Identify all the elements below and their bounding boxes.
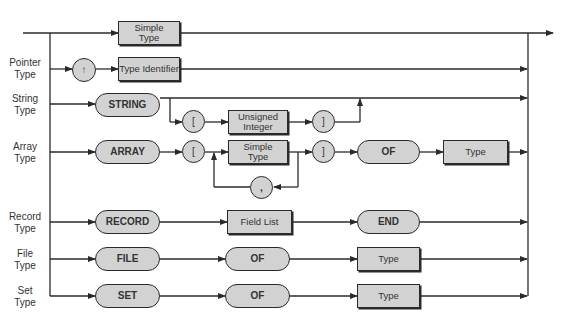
label-text: Pointer Type — [5, 57, 45, 81]
lbracket-circle: [ — [182, 140, 205, 163]
node-simple-type: Simple Type — [228, 140, 288, 164]
label-string-type: String Type — [0, 93, 50, 117]
keyword-array: ARRAY — [95, 140, 160, 164]
keyword-end: END — [357, 210, 420, 234]
lbracket-circle: [ — [182, 110, 205, 133]
label-text: File Type — [9, 248, 41, 272]
node-simple-type: Simple Type — [118, 21, 180, 45]
node-type: Type — [357, 247, 420, 271]
caret-circle-icon: ↑ — [72, 58, 96, 82]
comma-circle: , — [250, 176, 273, 199]
keyword-of: OF — [357, 140, 420, 164]
keyword-record: RECORD — [95, 210, 160, 234]
rbracket-circle: ] — [312, 110, 335, 133]
keyword-file: FILE — [95, 247, 160, 271]
label-text: String Type — [5, 93, 45, 117]
rbracket-circle: ] — [312, 140, 335, 163]
keyword-of: OF — [225, 284, 290, 308]
node-type: Type — [357, 284, 420, 308]
label-array-type: Array Type — [0, 141, 50, 165]
keyword-of: OF — [225, 247, 290, 271]
label-text: Set Type — [9, 285, 41, 309]
label-pointer-type: Pointer Type — [0, 57, 50, 81]
label-text: Array Type — [5, 141, 45, 165]
node-type-identifier: Type Identifier — [118, 57, 180, 81]
keyword-string: STRING — [95, 93, 160, 117]
label-set-type: Set Type — [0, 285, 50, 309]
node-unsigned-integer: Unsigned Integer — [228, 110, 288, 134]
node-type: Type — [443, 140, 508, 164]
label-file-type: File Type — [0, 248, 50, 272]
label-record-type: Record Type — [0, 211, 50, 235]
keyword-set: SET — [95, 284, 160, 308]
label-text: Record Type — [5, 211, 45, 235]
node-field-list: Field List — [227, 210, 292, 234]
